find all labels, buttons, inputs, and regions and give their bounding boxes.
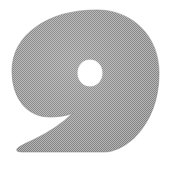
image-canvas: Large gray halftone-textured comma or ni… [0,0,172,169]
comma-glyph-illustration: Large gray halftone-textured comma or ni… [0,0,172,169]
